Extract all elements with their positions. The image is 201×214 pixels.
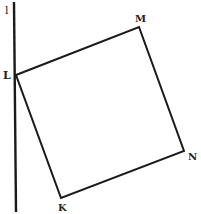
vertex-label-n: N — [188, 151, 197, 162]
line-l — [14, 2, 16, 212]
vertex-label-m: M — [135, 13, 146, 24]
vertex-label-k: K — [58, 202, 67, 213]
line-l-label: l — [5, 4, 9, 17]
vertex-label-l: L — [3, 69, 11, 82]
quadrilateral-diagram: l L M N K — [0, 0, 201, 214]
quadrilateral-klmn — [16, 27, 184, 198]
